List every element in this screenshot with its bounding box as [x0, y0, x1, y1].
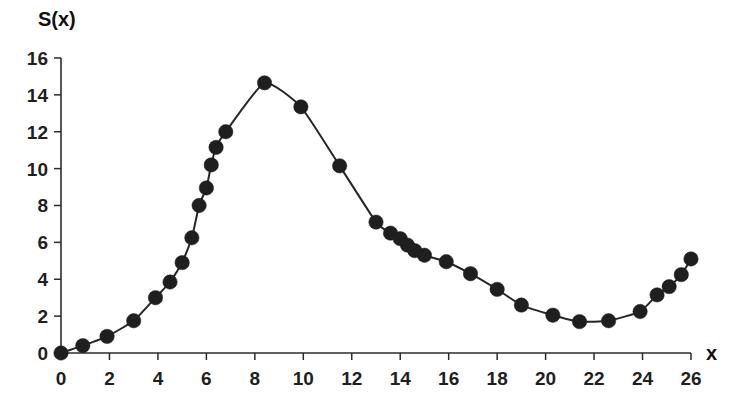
x-tick-label-2: 2 [104, 368, 115, 389]
x-tick-label-10: 10 [293, 368, 314, 389]
x-tick-label-4: 4 [153, 368, 164, 389]
data-point [417, 248, 431, 262]
y-axis [54, 58, 61, 353]
data-point [514, 298, 528, 312]
data-point [204, 158, 218, 172]
data-point [76, 338, 90, 352]
data-point [192, 198, 206, 212]
data-point [633, 304, 647, 318]
data-point [662, 279, 676, 293]
data-point [126, 314, 140, 328]
data-point [369, 215, 383, 229]
y-tick-label-14: 14 [27, 85, 49, 106]
x-tick-labels: 02468101214161820222426 [56, 368, 702, 389]
x-tick-label-18: 18 [487, 368, 508, 389]
data-point [572, 314, 586, 328]
x-tick-label-26: 26 [680, 368, 701, 389]
data-point [100, 329, 114, 343]
y-tick-label-16: 16 [27, 48, 48, 69]
data-point [219, 125, 233, 139]
y-tick-label-10: 10 [27, 159, 48, 180]
x-tick-label-14: 14 [390, 368, 412, 389]
chart-container: 0246810121416 02468101214161820222426 S(… [0, 0, 737, 414]
data-point [332, 159, 346, 173]
x-tick-label-20: 20 [535, 368, 556, 389]
y-tick-label-8: 8 [37, 195, 48, 216]
y-axis-title: S(x) [38, 8, 76, 30]
y-tick-label-4: 4 [37, 269, 48, 290]
data-point [185, 231, 199, 245]
data-point [684, 252, 698, 266]
x-tick-label-16: 16 [438, 368, 459, 389]
data-point [463, 267, 477, 281]
x-tick-label-12: 12 [341, 368, 362, 389]
x-tick-label-22: 22 [583, 368, 604, 389]
data-point [650, 288, 664, 302]
data-point [674, 267, 688, 281]
y-tick-label-6: 6 [37, 232, 48, 253]
data-point [490, 282, 504, 296]
x-axis [61, 353, 691, 360]
data-point [209, 140, 223, 154]
y-tick-labels: 0246810121416 [27, 48, 49, 364]
x-tick-label-24: 24 [632, 368, 654, 389]
x-axis-title: x [706, 342, 717, 364]
x-tick-label-8: 8 [250, 368, 261, 389]
data-point [54, 346, 68, 360]
data-point [294, 100, 308, 114]
data-point [439, 255, 453, 269]
data-point [199, 181, 213, 195]
data-point [601, 314, 615, 328]
data-point [163, 275, 177, 289]
data-point [175, 255, 189, 269]
chart-plot-area: 0246810121416 02468101214161820222426 S(… [0, 0, 737, 414]
y-tick-label-2: 2 [37, 306, 48, 327]
data-point [148, 290, 162, 304]
x-tick-label-0: 0 [56, 368, 67, 389]
data-series-markers [54, 76, 698, 361]
x-tick-label-6: 6 [201, 368, 212, 389]
y-tick-label-12: 12 [27, 122, 48, 143]
y-tick-label-0: 0 [37, 343, 48, 364]
data-point [546, 308, 560, 322]
data-point [257, 76, 271, 90]
